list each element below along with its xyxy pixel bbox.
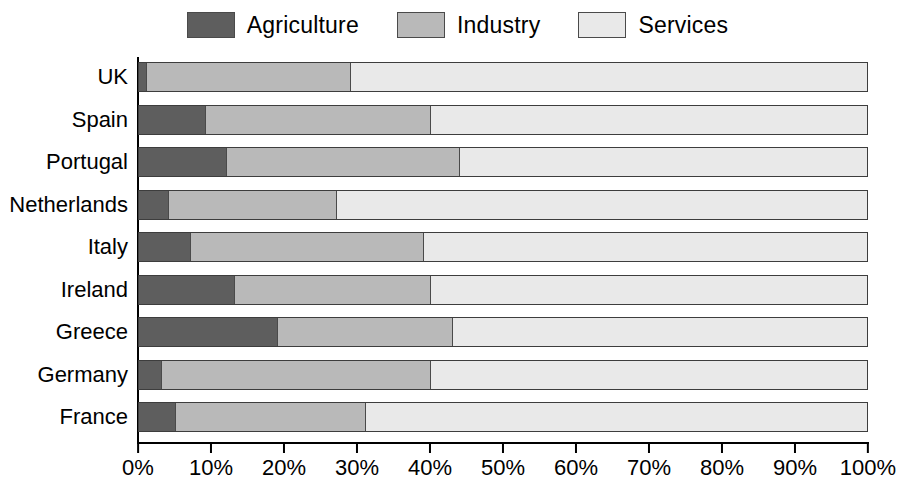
bar-segment-agriculture — [139, 191, 168, 219]
bar-segment-agriculture — [139, 233, 190, 261]
x-axis-tick-label: 10% — [189, 457, 233, 479]
bar-segment-services — [423, 233, 867, 261]
bar-segment-services — [459, 148, 867, 176]
bar-segment-industry — [175, 403, 364, 431]
y-axis-label-uk: UK — [0, 62, 128, 92]
legend-swatch-services — [578, 12, 626, 38]
x-axis-tick-70: 70% — [627, 444, 671, 479]
legend-item-services: Services — [578, 12, 728, 38]
bar-row — [138, 232, 868, 262]
bar-segment-services — [350, 63, 867, 91]
x-axis-tick-10: 10% — [189, 444, 233, 479]
legend-swatch-agriculture — [187, 12, 235, 38]
chart-legend: AgricultureIndustryServices — [0, 0, 915, 50]
y-axis-label-netherlands: Netherlands — [0, 190, 128, 220]
x-axis-tick-label: 60% — [554, 457, 598, 479]
bar-segment-agriculture — [139, 148, 226, 176]
x-axis-tick-30: 30% — [335, 444, 379, 479]
tick-mark-icon — [283, 444, 285, 453]
x-axis-tick-label: 90% — [773, 457, 817, 479]
bar-segment-services — [430, 361, 867, 389]
x-axis-tick-20: 20% — [262, 444, 306, 479]
x-axis-tick-label: 0% — [122, 457, 154, 479]
legend-item-industry: Industry — [397, 12, 540, 38]
x-axis-tick-label: 30% — [335, 457, 379, 479]
bar-segment-agriculture — [139, 403, 175, 431]
tick-mark-icon — [502, 444, 504, 453]
bar-segment-agriculture — [139, 361, 161, 389]
bar-row — [138, 360, 868, 390]
bar-segment-industry — [168, 191, 335, 219]
legend-label-industry: Industry — [457, 14, 540, 37]
x-axis-tick-40: 40% — [408, 444, 452, 479]
y-axis-label-greece: Greece — [0, 317, 128, 347]
bar-segment-agriculture — [139, 63, 146, 91]
bar-segment-industry — [234, 276, 431, 304]
bar-segment-services — [430, 106, 867, 134]
bar-row — [138, 62, 868, 92]
x-axis-ticks: 0%10%20%30%40%50%60%70%80%90%100% — [138, 444, 868, 490]
legend-swatch-industry — [397, 12, 445, 38]
bar-segment-services — [336, 191, 867, 219]
bar-segment-industry — [277, 318, 452, 346]
x-axis-tick-60: 60% — [554, 444, 598, 479]
x-axis-tick-100: 100% — [840, 444, 896, 479]
bar-row — [138, 402, 868, 432]
tick-mark-icon — [137, 444, 139, 453]
bar-row — [138, 147, 868, 177]
bar-segment-agriculture — [139, 106, 205, 134]
x-axis-tick-0: 0% — [122, 444, 154, 479]
y-axis-label-ireland: Ireland — [0, 275, 128, 305]
y-axis-label-portugal: Portugal — [0, 147, 128, 177]
bar-segment-industry — [190, 233, 423, 261]
x-axis-tick-90: 90% — [773, 444, 817, 479]
x-axis-tick-label: 50% — [481, 457, 525, 479]
tick-mark-icon — [867, 444, 869, 453]
y-axis-label-germany: Germany — [0, 360, 128, 390]
x-axis-tick-label: 100% — [840, 457, 896, 479]
bar-row — [138, 275, 868, 305]
legend-label-services: Services — [638, 14, 728, 37]
bar-segment-industry — [226, 148, 459, 176]
stacked-bar-chart: AgricultureIndustryServices UKSpainPortu… — [0, 0, 915, 494]
bar-row — [138, 317, 868, 347]
y-axis-label-italy: Italy — [0, 232, 128, 262]
bar-segment-services — [430, 276, 867, 304]
tick-mark-icon — [429, 444, 431, 453]
bar-row — [138, 105, 868, 135]
x-axis-tick-80: 80% — [700, 444, 744, 479]
bar-segment-agriculture — [139, 318, 277, 346]
bar-segment-industry — [146, 63, 350, 91]
bar-row — [138, 190, 868, 220]
tick-mark-icon — [794, 444, 796, 453]
x-axis-tick-label: 70% — [627, 457, 671, 479]
bar-segment-services — [365, 403, 867, 431]
x-axis-tick-label: 20% — [262, 457, 306, 479]
x-axis-tick-label: 40% — [408, 457, 452, 479]
legend-label-agriculture: Agriculture — [247, 14, 359, 37]
tick-mark-icon — [648, 444, 650, 453]
bar-segment-industry — [161, 361, 430, 389]
y-axis-label-spain: Spain — [0, 105, 128, 135]
y-axis-label-france: France — [0, 402, 128, 432]
tick-mark-icon — [721, 444, 723, 453]
bar-segment-services — [452, 318, 867, 346]
x-axis-tick-50: 50% — [481, 444, 525, 479]
tick-mark-icon — [356, 444, 358, 453]
tick-mark-icon — [575, 444, 577, 453]
bar-segment-agriculture — [139, 276, 234, 304]
plot-area — [138, 57, 868, 442]
x-axis-tick-label: 80% — [700, 457, 744, 479]
legend-item-agriculture: Agriculture — [187, 12, 359, 38]
bar-segment-industry — [205, 106, 431, 134]
tick-mark-icon — [210, 444, 212, 453]
y-axis-category-labels: UKSpainPortugalNetherlandsItalyIrelandGr… — [0, 57, 128, 442]
